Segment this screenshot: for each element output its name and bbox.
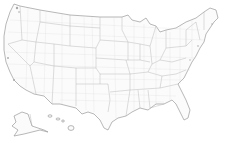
us-county-map: [0, 0, 227, 148]
alaska-inset: [12, 112, 48, 136]
hawaii-inset: [48, 115, 74, 131]
contiguous-us: [4, 4, 218, 130]
